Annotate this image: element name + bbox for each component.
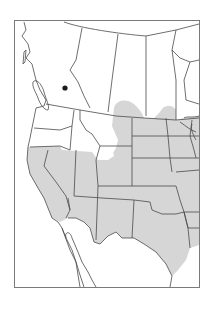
- map-canvas: [0, 0, 210, 311]
- range-map: [0, 0, 210, 311]
- record-marker-dot-icon: [62, 85, 67, 90]
